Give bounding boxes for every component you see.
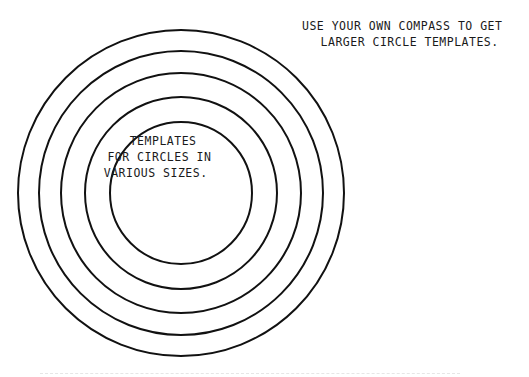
- circle-template-2: [39, 51, 323, 335]
- instruction-line-1: USE YOUR OWN COMPASS TO GET: [302, 18, 502, 34]
- faint-bottom-line: [40, 373, 460, 375]
- circle-template-3: [61, 73, 301, 313]
- label-line-2: FOR CIRCLES IN: [100, 149, 211, 165]
- templates-label: TEMPLATES FOR CIRCLES INVARIOUS SIZES.: [100, 133, 211, 181]
- circle-template-4: [85, 97, 277, 289]
- instruction-line-2: LARGER CIRCLE TEMPLATES.: [302, 34, 502, 50]
- circle-template-1: [18, 30, 344, 356]
- compass-instruction: USE YOUR OWN COMPASS TO GET LARGER CIRCL…: [302, 18, 502, 50]
- label-line-1: TEMPLATES: [100, 133, 211, 149]
- label-line-3: VARIOUS SIZES.: [100, 165, 211, 181]
- circle-templates: [0, 0, 529, 377]
